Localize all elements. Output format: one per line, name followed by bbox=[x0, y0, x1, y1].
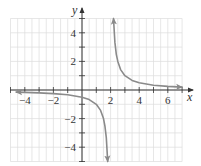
y-tick-label: −2 bbox=[64, 113, 76, 125]
x-axis-label: x bbox=[186, 90, 193, 104]
x-tick-label: −4 bbox=[19, 94, 31, 106]
x-tick-label: −2 bbox=[48, 94, 60, 106]
function-graph: −4−224642−2−4 x y bbox=[0, 0, 201, 166]
y-tick-label: −4 bbox=[64, 141, 76, 153]
y-axis-label: y bbox=[71, 3, 78, 17]
y-tick-label: 4 bbox=[71, 27, 77, 39]
y-tick-label: 2 bbox=[71, 55, 77, 67]
x-tick-label: 6 bbox=[165, 94, 171, 106]
x-tick-label: 4 bbox=[136, 94, 142, 106]
x-tick-label: 2 bbox=[108, 94, 114, 106]
curve-right-branch bbox=[114, 19, 183, 88]
axes bbox=[10, 8, 193, 162]
